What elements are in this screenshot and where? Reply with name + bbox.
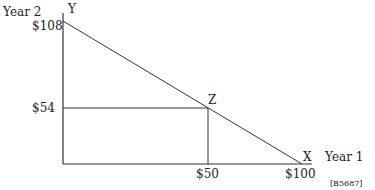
x-tick-50: $50 — [196, 168, 219, 180]
y-tick-54: $54 — [32, 102, 55, 114]
point-z-label: Z — [208, 94, 216, 106]
x-axis-title: Year 1 — [325, 151, 363, 163]
x-tick-100: $100 — [285, 168, 316, 180]
figure-code: [B5687] — [330, 180, 362, 188]
budget-line — [63, 21, 302, 164]
point-x-label: X — [303, 151, 312, 163]
y-axis-title: Year 2 — [3, 6, 41, 18]
y-tick-108: $108 — [32, 20, 63, 32]
point-y-label: Y — [68, 3, 76, 15]
